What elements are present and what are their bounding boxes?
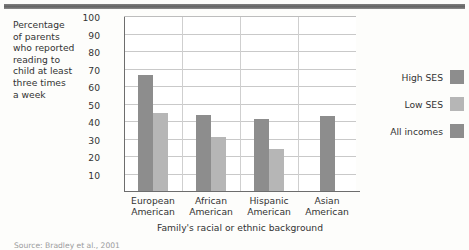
y-tick-label: 10	[88, 169, 100, 180]
x-category-label-line: African	[182, 195, 240, 206]
x-category-label-line: American	[298, 206, 356, 217]
bar-group	[124, 17, 182, 192]
x-category-label-line: European	[124, 195, 182, 206]
bar	[138, 75, 153, 192]
plot-area	[124, 17, 356, 192]
y-axis-caption-line: who reported	[13, 42, 99, 54]
x-category-label: EuropeanAmerican	[124, 195, 182, 217]
legend-item-low-ses: Low SES	[378, 97, 464, 111]
bar-group	[240, 17, 298, 192]
x-category-label-line: American	[182, 206, 240, 217]
y-axis-caption: Percentage of parents who reported readi…	[13, 19, 99, 100]
y-tick-label: 80	[88, 47, 100, 58]
x-category-label-line: American	[240, 206, 298, 217]
bar	[269, 149, 284, 192]
bar	[153, 113, 168, 192]
x-category-label-line: Asian	[298, 195, 356, 206]
x-category-label: AsianAmerican	[298, 195, 356, 217]
y-tick-label: 100	[82, 12, 100, 23]
x-category-label-line: American	[124, 206, 182, 217]
bar	[254, 119, 269, 192]
y-axis-caption-line: reading to	[13, 54, 99, 66]
y-axis-caption-line: three times	[13, 77, 99, 89]
source-note: Source: Bradley et al., 2001	[14, 241, 120, 250]
y-tick-label: 40	[88, 117, 100, 128]
bar-groups	[124, 17, 356, 192]
x-axis-line	[124, 191, 360, 192]
bar	[320, 116, 335, 192]
bar-group	[182, 17, 240, 192]
legend-item-all-incomes: All incomes	[378, 124, 464, 138]
y-axis-caption-line: a week	[13, 89, 99, 101]
bar	[196, 115, 211, 192]
y-tick-label: 50	[88, 99, 100, 110]
legend-swatch	[450, 97, 464, 111]
legend-label: All incomes	[390, 126, 443, 137]
y-tick-label: 60	[88, 82, 100, 93]
x-category-label: HispanicAmerican	[240, 195, 298, 217]
legend-swatch	[450, 70, 464, 84]
bar	[211, 137, 226, 192]
y-axis-caption-line: child at least	[13, 65, 99, 77]
chart-legend: High SESLow SESAll incomes	[378, 70, 464, 151]
x-axis-title: Family's racial or ethnic background	[124, 222, 356, 233]
y-tick-label: 70	[88, 64, 100, 75]
y-tick-label: 90	[88, 29, 100, 40]
legend-item-high-ses: High SES	[378, 70, 464, 84]
top-rule-divider	[4, 4, 465, 9]
y-tick-label: 20	[88, 152, 100, 163]
x-category-label: AfricanAmerican	[182, 195, 240, 217]
y-tick-label: 30	[88, 134, 100, 145]
plot-wrapper: 100908070605040302010	[104, 17, 356, 192]
legend-label: Low SES	[405, 99, 443, 110]
y-axis-line	[124, 17, 125, 192]
bar-group	[298, 17, 356, 192]
legend-label: High SES	[401, 72, 443, 83]
y-axis-caption-line: of parents	[13, 31, 99, 43]
x-category-labels: EuropeanAmericanAfricanAmericanHispanicA…	[124, 195, 356, 217]
figure-container: Percentage of parents who reported readi…	[0, 0, 469, 250]
legend-swatch	[450, 124, 464, 138]
x-category-label-line: Hispanic	[240, 195, 298, 206]
